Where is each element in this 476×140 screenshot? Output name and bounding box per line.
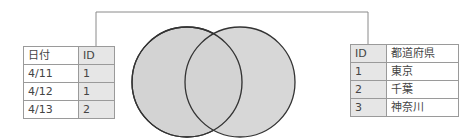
cell-prefecture: 東京 <box>387 63 459 81</box>
table-header-row: ID 都道府県 <box>351 45 459 63</box>
table-header-row: 日付 ID <box>24 47 115 65</box>
cell-prefecture: 千葉 <box>387 81 459 99</box>
header-id: ID <box>351 45 387 63</box>
table-row: 3 神奈川 <box>351 99 459 117</box>
sales-table: 日付 ID 4/11 1 4/12 1 4/13 2 <box>23 46 115 119</box>
table-row: 1 東京 <box>351 63 459 81</box>
cell-id: 1 <box>351 63 387 81</box>
cell-date: 4/12 <box>24 83 79 101</box>
table-row: 4/13 2 <box>24 101 115 119</box>
cell-id: 1 <box>79 83 115 101</box>
cell-prefecture: 神奈川 <box>387 99 459 117</box>
header-prefecture: 都道府県 <box>387 45 459 63</box>
table-row: 4/11 1 <box>24 65 115 83</box>
cell-date: 4/13 <box>24 101 79 119</box>
cell-date: 4/11 <box>24 65 79 83</box>
cell-id: 1 <box>79 65 115 83</box>
table-row: 2 千葉 <box>351 81 459 99</box>
table-row: 4/12 1 <box>24 83 115 101</box>
header-date: 日付 <box>24 47 79 65</box>
cell-id: 2 <box>351 81 387 99</box>
cell-id: 2 <box>79 101 115 119</box>
header-id: ID <box>79 47 115 65</box>
cell-id: 3 <box>351 99 387 117</box>
prefecture-table: ID 都道府県 1 東京 2 千葉 3 神奈川 <box>350 44 459 117</box>
right-set-circle <box>185 27 295 137</box>
